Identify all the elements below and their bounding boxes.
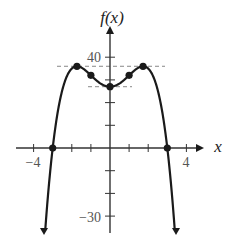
local-max-point — [73, 63, 80, 70]
right-arrow-icon — [172, 228, 180, 235]
inflection-point — [126, 72, 133, 79]
x-tick-label-neg4: −4 — [26, 155, 41, 170]
left-arrow-icon — [40, 228, 48, 235]
local-min-point — [106, 83, 113, 90]
x-tick-label-4: 4 — [183, 155, 190, 170]
function-graph: f(x) x 40 −30 −4 4 — [0, 0, 234, 239]
y-tick-label-neg30: −30 — [79, 210, 101, 225]
y-tick-label-40: 40 — [87, 50, 101, 65]
chart-container: f(x) x 40 −30 −4 4 — [0, 0, 234, 239]
local-max-point — [139, 63, 146, 70]
zero-point — [164, 144, 171, 151]
x-axis-label: x — [213, 137, 222, 156]
y-axis-label: f(x) — [100, 8, 124, 27]
zero-point — [49, 144, 56, 151]
inflection-point — [87, 72, 94, 79]
